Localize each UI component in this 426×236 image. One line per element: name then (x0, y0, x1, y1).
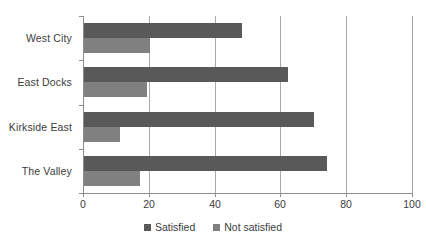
value-axis-tick-label: 20 (129, 199, 169, 210)
bar-the-valley-not-satisfied (84, 171, 140, 186)
category-axis-tick (79, 60, 84, 61)
bar-chart: West CityEast DocksKirkside EastThe Vall… (0, 0, 426, 236)
bar-kirkside-east-not-satisfied (84, 127, 120, 142)
category-axis-tick (79, 149, 84, 150)
legend-swatch-icon (213, 224, 220, 231)
legend-label: Not satisfied (224, 222, 282, 233)
value-axis-tick-label: 40 (195, 199, 235, 210)
legend-label: Satisfied (155, 222, 195, 233)
gridline (346, 16, 347, 193)
bar-west-city-not-satisfied (84, 38, 150, 53)
bar-east-docks-not-satisfied (84, 82, 147, 97)
value-axis-tick-labels: 020406080100 (0, 199, 426, 213)
category-label-the-valley: The Valley (0, 166, 72, 177)
category-label-west-city: West City (0, 33, 72, 44)
value-axis-tick-label: 100 (392, 199, 426, 210)
category-axis-tick (79, 105, 84, 106)
value-axis-tick (149, 193, 150, 197)
value-axis-line (83, 193, 413, 194)
legend-item-satisfied[interactable]: Satisfied (144, 222, 195, 233)
category-axis-labels: West CityEast DocksKirkside EastThe Vall… (0, 16, 78, 193)
plot-area (83, 16, 412, 193)
category-axis-tick (79, 16, 84, 17)
bar-the-valley-satisfied (84, 156, 327, 171)
bar-east-docks-satisfied (84, 67, 288, 82)
value-axis-tick (215, 193, 216, 197)
legend-swatch-icon (144, 224, 151, 231)
chart-legend: SatisfiedNot satisfied (0, 220, 426, 234)
bar-west-city-satisfied (84, 23, 242, 38)
gridline (412, 16, 413, 193)
value-axis-tick-label: 0 (63, 199, 103, 210)
value-axis-tick (280, 193, 281, 197)
value-axis-tick-label: 80 (326, 199, 366, 210)
category-label-kirkside-east: Kirkside East (0, 122, 72, 133)
value-axis-tick (346, 193, 347, 197)
value-axis-tick (83, 193, 84, 197)
value-axis-tick-label: 60 (260, 199, 300, 210)
legend-item-not-satisfied[interactable]: Not satisfied (213, 222, 282, 233)
category-label-east-docks: East Docks (0, 77, 72, 88)
value-axis-tick (412, 193, 413, 197)
bar-kirkside-east-satisfied (84, 112, 314, 127)
